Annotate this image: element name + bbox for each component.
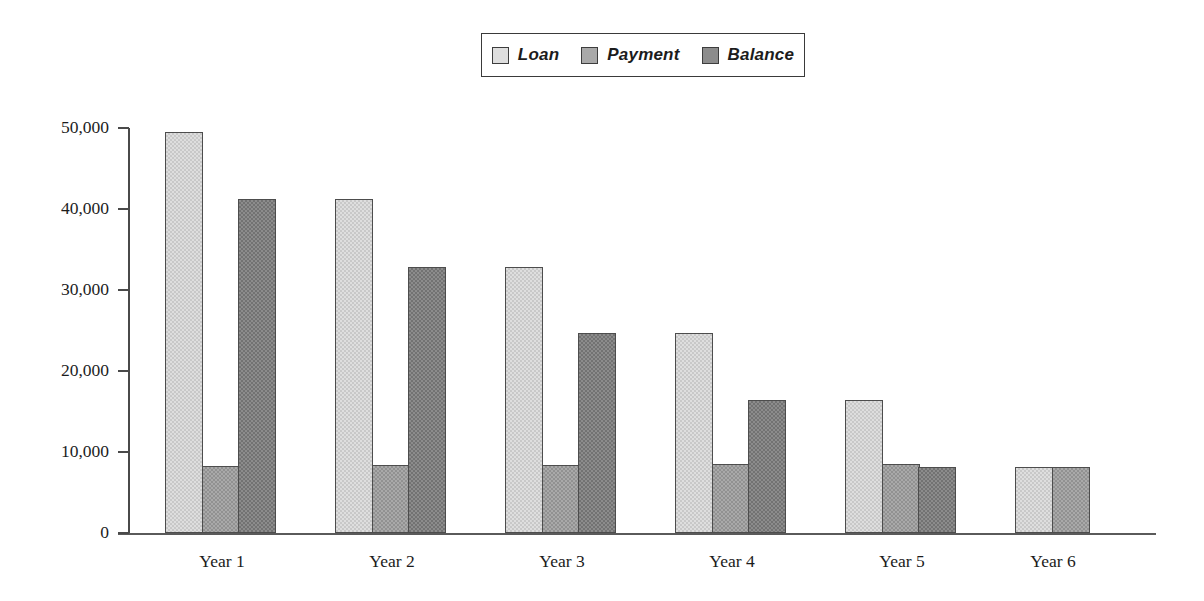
bar-loan-year-6 [1015,467,1053,533]
y-tick-label: 30,000 [0,279,109,300]
x-tick-label: Year 1 [142,551,302,572]
bar-balance-year-3 [578,333,616,533]
x-tick-label: Year 3 [482,551,642,572]
bar-payment-year-6 [1052,467,1090,533]
bar-payment-year-5 [882,464,920,533]
bar-group [335,127,445,533]
bar-group [845,127,955,533]
y-tick-label: 20,000 [0,360,109,381]
y-tick-label: 10,000 [0,441,109,462]
bar-group [165,127,275,533]
bar-chart: Loan Payment Balance 010,00020,00030,000… [0,0,1204,601]
x-tick-label: Year 5 [822,551,982,572]
bar-group [505,127,615,533]
bar-payment-year-2 [372,465,410,533]
bar-loan-year-1 [165,132,203,533]
bar-balance-year-1 [238,199,276,533]
bar-balance-year-5 [918,467,956,533]
bar-groups [128,0,1156,601]
plot-area: 010,00020,00030,00040,00050,000 Year 1Ye… [0,0,1204,601]
bar-loan-year-4 [675,333,713,533]
bar-balance-year-4 [748,400,786,533]
x-tick-label: Year 6 [973,551,1133,572]
bar-payment-year-3 [542,465,580,533]
bar-payment-year-4 [712,464,750,533]
x-tick-label: Year 2 [312,551,472,572]
y-tick-label: 50,000 [0,117,109,138]
y-tick-label: 0 [0,522,109,543]
bar-loan-year-3 [505,267,543,533]
bar-balance-year-2 [408,267,446,533]
bar-group [675,127,785,533]
y-tick-label: 40,000 [0,198,109,219]
bar-loan-year-2 [335,199,373,533]
bar-loan-year-5 [845,400,883,533]
bar-group [1015,127,1088,533]
x-tick-label: Year 4 [652,551,812,572]
bar-payment-year-1 [202,466,240,533]
